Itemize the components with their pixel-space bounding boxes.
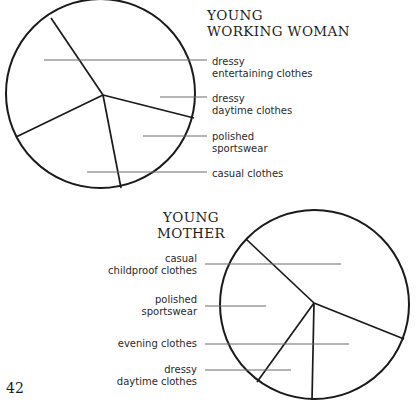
page-number: 42 (6, 380, 24, 396)
chart-title-line2: MOTHER (157, 225, 225, 241)
label-dressy-daytime-clothes-bottom: dressy daytime clothes (117, 364, 197, 387)
chart-title-young-mother: YOUNGMOTHER (136, 209, 246, 241)
label-polished-sportswear-bottom: polished sportswear (142, 294, 198, 317)
label-evening-clothes: evening clothes (118, 338, 197, 350)
chart-title-line1: YOUNG (163, 209, 219, 225)
pie-spoke-childproof-start (246, 239, 314, 303)
pie-spoke-childproof-end (314, 303, 404, 339)
pie-spoke-dressy-daytime-start (312, 303, 314, 400)
label-casual-childproof-clothes: casual childproof clothes (108, 253, 197, 276)
page-canvas: YOUNGWORKING WOMAN dressy entertaining c… (0, 0, 416, 403)
pie-chart-young-mother (0, 0, 416, 403)
